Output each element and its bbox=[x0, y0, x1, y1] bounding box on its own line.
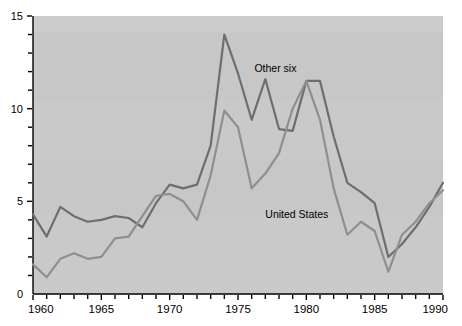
x-axis-tick-labels: 1960196519701975198019851990 bbox=[28, 303, 448, 315]
plot-texture-band bbox=[33, 33, 443, 100]
x-tick-label: 1985 bbox=[362, 303, 388, 315]
x-tick-label: 1990 bbox=[422, 303, 448, 315]
x-tick-label: 1975 bbox=[225, 303, 251, 315]
line-chart: 0510151960196519701975198019851990Other … bbox=[0, 0, 462, 326]
x-axis-ticks bbox=[33, 295, 443, 300]
series-label-other-six: Other six bbox=[254, 62, 297, 74]
chart-canvas: 0510151960196519701975198019851990Other … bbox=[0, 0, 462, 326]
x-tick-label: 1960 bbox=[28, 303, 54, 315]
y-tick-label: 10 bbox=[11, 103, 23, 115]
y-tick-label: 5 bbox=[17, 195, 23, 207]
y-tick-label: 0 bbox=[17, 288, 23, 300]
x-tick-label: 1970 bbox=[157, 303, 183, 315]
x-tick-label: 1965 bbox=[89, 303, 115, 315]
y-axis-minor-ticks bbox=[28, 35, 32, 276]
plot-texture-band bbox=[33, 161, 443, 217]
plot-texture-band bbox=[33, 16, 443, 33]
y-tick-label: 15 bbox=[11, 10, 23, 22]
series-label-united-states: United States bbox=[265, 208, 328, 220]
y-axis-tick-labels: 051015 bbox=[11, 10, 23, 300]
x-tick-label: 1980 bbox=[294, 303, 320, 315]
y-axis-major-ticks bbox=[27, 16, 32, 201]
